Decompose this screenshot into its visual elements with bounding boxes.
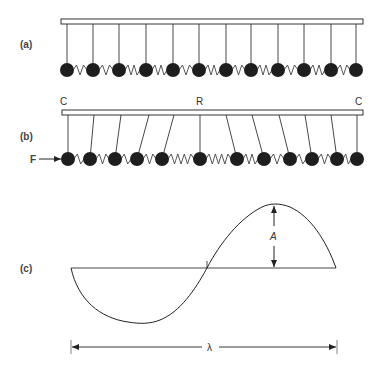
pendulum-ball <box>297 63 311 77</box>
force-label: F <box>30 154 36 165</box>
panel-a-label: (a) <box>20 39 32 50</box>
pendulum-ball <box>139 63 153 77</box>
pendulum-ball <box>192 63 206 77</box>
pendulum-ball <box>244 63 258 77</box>
panel-b: C R C (b) F <box>20 96 364 166</box>
marker-r-center: R <box>196 96 203 107</box>
amplitude-label: A <box>269 231 277 242</box>
pendulum-ball <box>83 152 97 166</box>
marker-c-left: C <box>60 96 67 107</box>
pendulum-ball <box>349 63 363 77</box>
pendulum-ball <box>324 63 338 77</box>
pendulum-rods-a <box>67 24 356 70</box>
pendulum-ball <box>230 152 244 166</box>
pendulum-ball <box>112 63 126 77</box>
pendulum-ball <box>108 152 122 166</box>
pendulum-ball <box>61 152 75 166</box>
support-bar-b <box>62 110 363 115</box>
pendulum-ball <box>219 63 233 77</box>
pendulum-ball <box>130 152 144 166</box>
pendulum-ball <box>193 152 207 166</box>
panel-b-label: (b) <box>20 131 33 142</box>
panel-a: (a) <box>20 19 363 77</box>
pendulum-ball <box>86 63 100 77</box>
pendulum-ball <box>350 152 364 166</box>
pendulum-ball <box>257 152 271 166</box>
pendulum-ball <box>305 152 319 166</box>
pendulum-ball <box>271 63 285 77</box>
wave-diagram: (a) C R C (b) F (c) A λ <box>0 0 378 384</box>
panel-c: (c) A λ <box>20 204 337 354</box>
pendulum-ball <box>283 152 297 166</box>
pendulum-ball <box>330 152 344 166</box>
pendulum-ball <box>166 63 180 77</box>
wavelength-label: λ <box>207 342 212 353</box>
pendulum-ball <box>155 152 169 166</box>
sine-wave <box>71 204 336 323</box>
marker-c-right: C <box>355 96 362 107</box>
support-bar-a <box>61 19 363 24</box>
pendulum-ball <box>60 63 74 77</box>
panel-c-label: (c) <box>20 263 32 274</box>
